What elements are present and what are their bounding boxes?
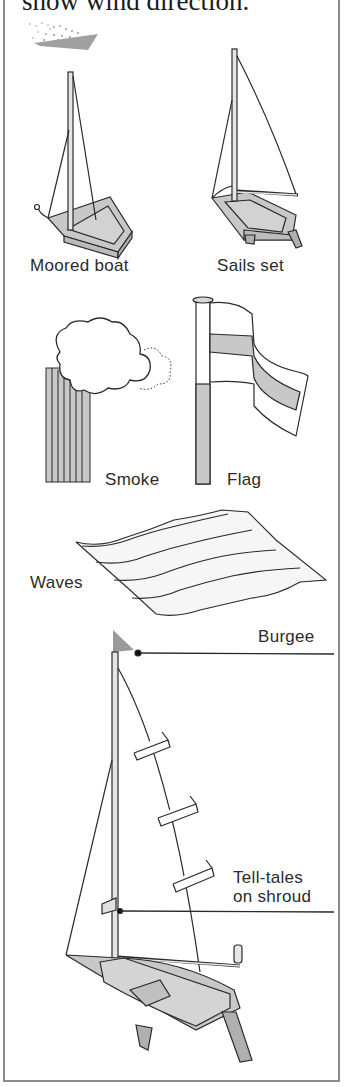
label-tell-tales-line1: Tell-tales: [233, 868, 303, 888]
wind-indicators-illustration: [0, 0, 350, 1087]
flag-icon: [193, 297, 308, 484]
label-tell-tales-line2: on shroud: [233, 887, 311, 907]
label-flag: Flag: [227, 470, 261, 490]
label-smoke: Smoke: [105, 470, 159, 490]
label-burgee: Burgee: [258, 627, 315, 647]
burgee-flag-icon: [113, 630, 134, 652]
label-moored-boat: Moored boat: [30, 256, 129, 276]
wind-streak-icon: [29, 22, 98, 50]
sails-set-boat-icon: [212, 49, 302, 248]
smoke-chimney-icon: [46, 318, 171, 482]
moored-boat-icon: [35, 72, 133, 258]
label-waves: Waves: [30, 573, 83, 593]
sailing-dinghy-icon: [66, 630, 334, 1062]
label-sails-set: Sails set: [217, 256, 284, 276]
waves-icon: [76, 510, 326, 615]
